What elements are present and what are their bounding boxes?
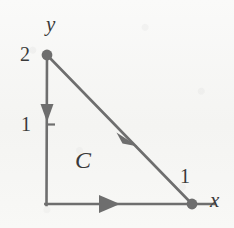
triangle-curve-diagram	[0, 0, 234, 228]
y-tick-label-2: 2	[20, 44, 30, 64]
curve-label-c: C	[75, 148, 91, 172]
figure-canvas: y 2 1 C 1 x	[0, 0, 234, 228]
vertex-dot-y-intercept	[42, 50, 53, 61]
x-axis-label: x	[210, 190, 219, 211]
x-tick-label-1: 1	[180, 166, 190, 186]
y-axis-line	[47, 55, 48, 205]
y-axis-label: y	[46, 14, 55, 35]
hypotenuse-line	[47, 55, 192, 204]
x-axis-direction-arrow-icon	[99, 195, 120, 213]
y-axis-direction-arrow-icon	[41, 104, 54, 122]
y-tick-label-1: 1	[21, 114, 31, 134]
vertex-dot-x-intercept	[187, 199, 198, 210]
